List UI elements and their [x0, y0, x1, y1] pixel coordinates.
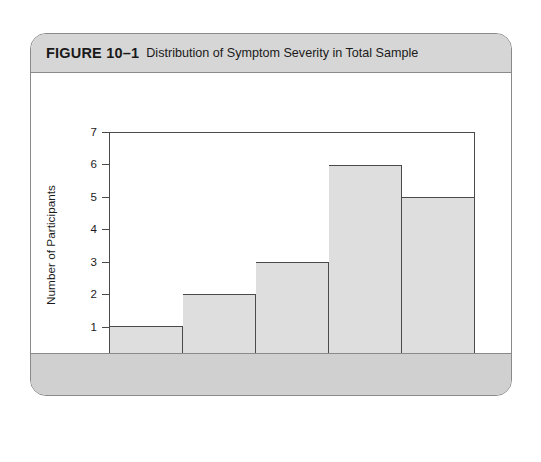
figure-header: FIGURE 10–1 Distribution of Symptom Seve…: [31, 34, 511, 73]
figure-caption-label: Distribution of Symptom Severity in Tota…: [146, 46, 418, 60]
figure-footer: [31, 353, 511, 395]
y-axis-tick: 5: [102, 197, 109, 198]
y-axis-tick-label: 5: [91, 191, 102, 204]
figure-body: Number of Participants 01234567 Much wor…: [31, 73, 511, 353]
bar: [329, 165, 402, 358]
y-axis-tick-label: 6: [91, 158, 102, 171]
bar: [183, 294, 256, 358]
plot-area: [109, 132, 475, 359]
y-axis-title: Number of Participants: [44, 185, 58, 305]
bar-series: [110, 133, 474, 358]
y-axis-tick-label: 2: [91, 288, 102, 301]
y-axis-tick: 1: [102, 327, 109, 328]
bar: [256, 262, 329, 358]
bar: [402, 197, 474, 358]
y-axis-tick-label: 1: [91, 321, 102, 334]
bar-chart: Number of Participants 01234567 Much wor…: [31, 73, 511, 353]
figure-number-label: FIGURE 10–1: [46, 45, 139, 61]
y-axis-tick: 6: [102, 164, 109, 165]
y-axis-tick-label: 7: [91, 126, 102, 139]
y-axis-tick: 2: [102, 294, 109, 295]
y-axis-tick: 7: [102, 132, 109, 133]
y-axis-tick: 3: [102, 262, 109, 263]
y-axis-tick: 4: [102, 229, 109, 230]
y-axis-tick-label: 3: [91, 256, 102, 269]
figure-card: FIGURE 10–1 Distribution of Symptom Seve…: [30, 33, 512, 396]
y-axis-tick-label: 4: [91, 223, 102, 236]
